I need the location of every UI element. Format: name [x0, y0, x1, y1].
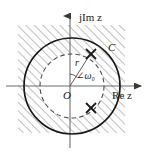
radius-label: r	[75, 57, 79, 68]
angle-omega-label: ∠ω₀	[76, 70, 95, 81]
figure-canvas: jIm z Re z O C r ∠ω₀	[0, 0, 160, 153]
complex-plane-figure: jIm z Re z O C r ∠ω₀	[0, 0, 160, 153]
imaginary-axis-label: jIm z	[78, 11, 102, 23]
real-axis-label: Re z	[112, 89, 132, 101]
origin-label: O	[63, 89, 71, 101]
contour-label: C	[108, 41, 116, 53]
